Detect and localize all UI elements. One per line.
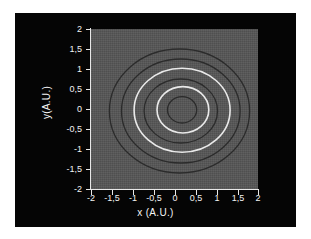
y-tick-label: 1,5 xyxy=(69,45,82,54)
contour-ring-4 xyxy=(134,68,230,152)
y-tick-label: 1 xyxy=(77,65,82,74)
y-tick-label: 0,5 xyxy=(69,85,82,94)
y-tick-mark xyxy=(86,109,91,110)
y-tick-mark xyxy=(86,49,91,50)
y-tick-mark xyxy=(86,89,91,90)
x-axis-label: x (A.U.) xyxy=(15,207,296,218)
contour-ring-1 xyxy=(168,97,197,123)
y-tick-label: -2 xyxy=(74,185,82,194)
x-tick-label: 2 xyxy=(245,194,271,203)
contour-ring-5 xyxy=(122,59,241,163)
y-tick-mark xyxy=(86,69,91,70)
contour-lines xyxy=(91,29,258,189)
y-tick-label: 0 xyxy=(77,105,82,114)
contour-ring-2 xyxy=(157,87,209,133)
y-tick-mark xyxy=(86,129,91,130)
y-axis-label: y(A.U.) xyxy=(41,58,52,148)
y-tick-label: 2 xyxy=(77,25,82,34)
y-tick-mark xyxy=(86,149,91,150)
y-tick-mark xyxy=(86,29,91,30)
y-tick-label: -0,5 xyxy=(66,125,82,134)
y-tick-label: -1 xyxy=(74,145,82,154)
y-tick-mark xyxy=(86,169,91,170)
figure-canvas: 2 1,5 1 0,5 0 -0,5 -1 -1,5 -2 -2 -1,5 -1… xyxy=(15,13,296,227)
screenshot-root: 2 1,5 1 0,5 0 -0,5 -1 -1,5 -2 -2 -1,5 -1… xyxy=(0,0,311,239)
plot-area xyxy=(91,29,258,189)
y-tick-label: -1,5 xyxy=(66,165,82,174)
